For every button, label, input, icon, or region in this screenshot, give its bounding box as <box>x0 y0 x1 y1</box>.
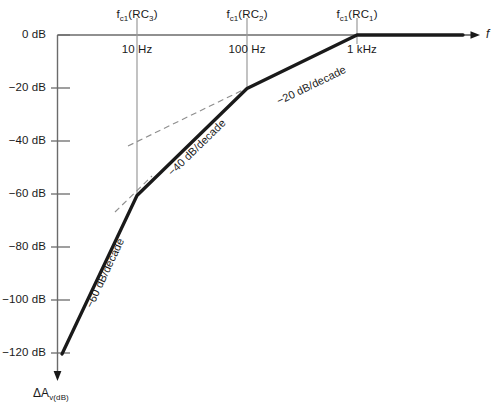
y-tick-label-minus20: −20 dB <box>0 82 46 94</box>
cutoff-label-rc3: fc1(RC3) <box>87 9 187 23</box>
cutoff-label-rc1: fc1(RC1) <box>307 9 407 23</box>
y-tick-label-0: 0 dB <box>0 29 46 41</box>
bode-plot-figure: 0 dB −20 dB −40 dB −60 dB −80 dB −100 dB… <box>0 0 502 415</box>
x-axis-arrowhead <box>471 31 481 39</box>
cutoff-label-rc2: fc1(RC2) <box>197 9 297 23</box>
y-tick-label-minus40: −40 dB <box>0 135 46 147</box>
y-tick-label-minus80: −80 dB <box>0 241 46 253</box>
cutoff-label-rc2-open: (RC <box>238 8 259 20</box>
bode-plot-canvas <box>0 0 502 415</box>
freq-label-1khz: 1 kHz <box>322 44 402 56</box>
freq-label-10hz: 10 Hz <box>97 44 177 56</box>
dashed-asymptote-40 <box>128 88 247 146</box>
y-axis-name: ΔAv(dB) <box>33 387 69 402</box>
y-tick-label-minus120: −120 dB <box>0 347 46 359</box>
cutoff-label-rc2-close: ) <box>264 8 268 20</box>
y-axis-arrowhead <box>54 371 62 381</box>
y-axis-name-main: ΔA <box>33 386 49 400</box>
cutoff-label-rc3-open: (RC <box>128 8 149 20</box>
magnitude-response-curve <box>62 35 463 354</box>
y-axis-name-sub: v(dB) <box>49 393 69 402</box>
x-axis-name: f <box>486 28 489 40</box>
y-tick-label-minus60: −60 dB <box>0 188 46 200</box>
y-axis-ticks <box>51 35 70 353</box>
freq-label-100hz: 100 Hz <box>207 44 287 56</box>
cutoff-label-rc1-open: (RC <box>348 8 369 20</box>
cutoff-label-rc1-close: ) <box>374 8 378 20</box>
y-tick-label-minus100: −100 dB <box>0 294 46 306</box>
cutoff-label-rc3-close: ) <box>154 8 158 20</box>
